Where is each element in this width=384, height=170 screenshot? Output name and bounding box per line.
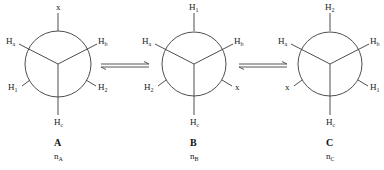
substituent-label-ha: Ha xyxy=(142,36,152,47)
substituent-label-top: x xyxy=(56,2,61,12)
substituent-label-ha: Ha xyxy=(6,36,16,47)
substituent-label-x: x xyxy=(235,82,240,92)
population-label: nC xyxy=(326,151,335,162)
back-bond-bottom-left xyxy=(22,80,30,86)
population-label: nA xyxy=(54,151,64,162)
substituent-label-h1: H1 xyxy=(370,82,380,93)
substituent-label-ha: Ha xyxy=(278,36,288,47)
back-bond-bottom-left xyxy=(158,80,166,86)
substituent-label-h1: H1 xyxy=(8,82,18,93)
substituent-label-x: x xyxy=(285,82,290,92)
conformer-c: H2 Ha Hb x H1 Hc C nC xyxy=(278,2,380,162)
substituent-label-hb: Hb xyxy=(98,36,108,47)
conformer-label: B xyxy=(190,137,197,148)
back-bond-bottom-right xyxy=(86,80,96,86)
equilibrium-arrow-ab xyxy=(101,62,149,70)
substituent-label-h1: H1 xyxy=(189,2,199,13)
equilibrium-arrow-bc xyxy=(239,62,287,70)
substituent-label-h2: H2 xyxy=(144,82,154,93)
substituent-label-hc: Hc xyxy=(54,117,64,128)
population-label: nB xyxy=(190,151,199,162)
substituent-label-h2: H2 xyxy=(98,82,108,93)
substituent-label-hc: Hc xyxy=(190,117,200,128)
substituent-label-hb: Hb xyxy=(370,36,380,47)
back-bond-bottom-right xyxy=(222,80,232,86)
substituent-label-hc: Hc xyxy=(326,117,336,128)
back-bond-bottom-right xyxy=(358,80,368,86)
conformer-label: C xyxy=(326,137,333,148)
substituent-label-hb: Hb xyxy=(234,36,244,47)
newman-equilibrium-diagram: x Ha Hb H1 H2 Hc A nA H1 Ha Hb H2 x Hc B… xyxy=(0,0,384,170)
conformer-label: A xyxy=(54,137,62,148)
substituent-label-h2: H2 xyxy=(325,2,335,13)
conformer-a: x Ha Hb H1 H2 Hc A nA xyxy=(6,2,108,162)
back-bond-bottom-left xyxy=(294,80,302,86)
conformer-b: H1 Ha Hb H2 x Hc B nB xyxy=(142,2,244,162)
